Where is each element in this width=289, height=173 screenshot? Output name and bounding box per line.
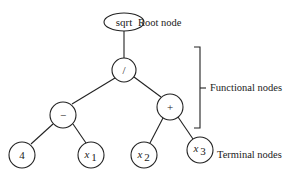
- edge-minus-4: [31, 124, 53, 144]
- root-node-annotation: Root node: [138, 17, 182, 28]
- minus-node-label: −: [60, 109, 66, 121]
- terminal-nodes-annotation: Terminal nodes: [217, 149, 282, 160]
- functional-nodes-bracket: [194, 47, 206, 128]
- edge-div-plus: [134, 77, 161, 97]
- tree-edges: [31, 31, 193, 144]
- terminal-x2-subscript: 2: [144, 151, 150, 163]
- terminal-x1-label: x: [84, 148, 90, 160]
- edge-minus-x1: [73, 124, 86, 143]
- terminal-x1-subscript: 1: [91, 151, 97, 163]
- edge-plus-x3: [178, 117, 193, 139]
- functional-nodes-annotation: Functional nodes: [210, 82, 282, 93]
- terminal-x3-subscript: 3: [200, 145, 206, 157]
- edge-plus-x2: [150, 118, 163, 143]
- root-node-label: sqrt: [116, 16, 133, 28]
- terminal-x3-label: x: [193, 142, 199, 154]
- edge-div-minus: [72, 78, 115, 104]
- expression-tree-diagram: sqrt / − + 4 x 1 x 2 x 3 Root node Funct…: [0, 0, 289, 173]
- terminal-4-label: 4: [19, 149, 25, 161]
- plus-node-label: +: [167, 101, 173, 113]
- terminal-x2-label: x: [137, 148, 143, 160]
